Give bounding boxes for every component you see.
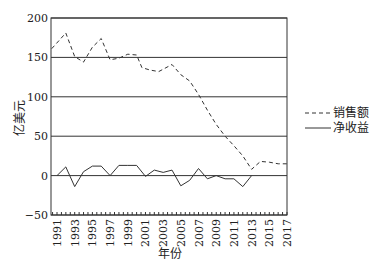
x-tick-label: 1991 (51, 219, 64, 247)
gridlines (51, 18, 287, 215)
x-tick-label: 1995 (86, 219, 99, 247)
y-tick-label: 150 (27, 51, 48, 64)
x-tick-label: 2009 (210, 219, 223, 247)
x-tick-label: 1997 (104, 219, 117, 247)
x-tick-label: 2005 (175, 219, 188, 247)
chart: 200150100500−50 199119931995199719992001… (0, 0, 378, 274)
y-tick-label: 200 (27, 12, 48, 25)
x-tick-label: 2017 (281, 219, 294, 247)
series-lines (52, 33, 287, 187)
sales-line (52, 33, 287, 169)
x-axis-ticks: 1991199319951997199920012003200520072009… (51, 212, 294, 247)
x-tick-label: 1993 (69, 219, 82, 247)
x-axis-title: 年份 (158, 247, 182, 261)
y-tick-label: −50 (25, 209, 48, 222)
x-tick-label: 2013 (246, 219, 259, 247)
x-tick-label: 2001 (139, 219, 152, 247)
legend-label-net-income: 净收益 (333, 121, 369, 135)
legend: 销售额 净收益 (305, 105, 369, 135)
y-tick-label: 100 (27, 91, 48, 104)
x-tick-label: 1999 (122, 219, 135, 247)
y-axis-title: 亿美元 (12, 100, 27, 136)
y-tick-label: 0 (41, 170, 48, 183)
y-axis-ticks: 200150100500−50 (25, 12, 48, 222)
legend-label-sales: 销售额 (333, 105, 369, 120)
plot-frame (51, 18, 287, 215)
y-tick-label: 50 (34, 130, 48, 143)
x-tick-label: 2011 (228, 219, 241, 247)
x-tick-label: 2015 (263, 219, 276, 247)
x-tick-label: 2007 (193, 219, 206, 247)
x-tick-label: 2003 (157, 219, 170, 247)
